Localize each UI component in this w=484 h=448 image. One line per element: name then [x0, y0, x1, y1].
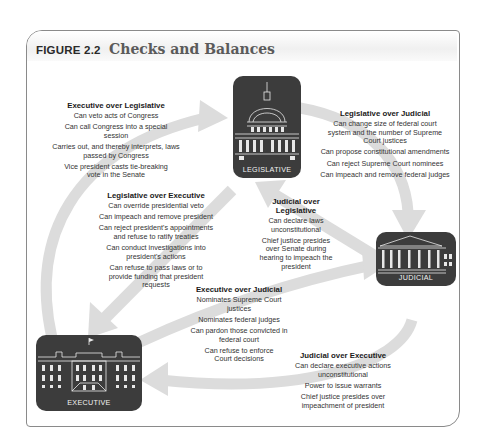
check-heading: Legislative over Judicial [318, 109, 452, 118]
check-item: Can reject Supreme Court nominees [318, 160, 452, 169]
judicial-label: JUDICIAL [376, 273, 456, 282]
check-item: Can pardon those convicted in federal co… [186, 327, 292, 344]
check-item: Can refuse to enforce Court decisions [186, 347, 292, 364]
check-item: Can veto acts of Congress [42, 112, 190, 121]
check-item: Can override presidential veto [90, 202, 222, 211]
check-item: Can propose constitutional amendments [318, 148, 452, 157]
check-item: Nominates federal judges [186, 316, 292, 325]
check-item: Can call Congress into a special session [42, 123, 190, 140]
check-legislative-over-executive: Legislative over Executive Can override … [90, 191, 222, 292]
check-item: Nominates Supreme Court justices [186, 296, 292, 313]
check-executive-over-legislative: Executive over Legislative Can veto acts… [42, 101, 190, 183]
check-heading: Executive over Legislative [42, 101, 190, 110]
legislative-label: LEGISLATIVE [233, 165, 301, 174]
judicial-branch: JUDICIAL [376, 232, 456, 286]
check-judicial-over-legislative: Judicial over Legislative Can declare la… [256, 197, 336, 274]
check-item: Can reject president's appointments and … [90, 224, 222, 241]
check-item: Can conduct investigations into presiden… [90, 244, 222, 261]
check-heading: Legislative over Executive [90, 191, 222, 200]
check-item: Carries out, and thereby interprets, law… [42, 143, 190, 160]
check-heading: Judicial over Legislative [256, 197, 336, 215]
check-item: Chief justice presides over impeachment … [280, 393, 406, 410]
check-item: Chief justice presides over Senate durin… [256, 237, 336, 271]
check-judicial-over-executive: Judicial over Executive Can declare exec… [280, 351, 406, 413]
executive-label: EXECUTIVE [36, 398, 142, 407]
executive-branch: EXECUTIVE [36, 335, 142, 411]
check-heading: Judicial over Executive [280, 351, 406, 360]
check-executive-over-judicial: Executive over Judicial Nominates Suprem… [186, 285, 292, 367]
check-item: Vice president casts tie-breaking vote i… [42, 163, 190, 180]
check-item: Can declare executive actions unconstitu… [280, 362, 406, 379]
check-item: Can impeach and remove president [90, 213, 222, 222]
check-item: Power to issue warrants [280, 382, 406, 391]
capitol-building-icon [233, 78, 301, 166]
check-item: Can declare laws unconstitutional [256, 217, 336, 234]
supreme-court-building-icon [376, 234, 456, 276]
check-legislative-over-judicial: Legislative over Judicial Can change siz… [318, 109, 452, 182]
check-item: Can impeach and remove federal judges [318, 171, 452, 180]
check-item: Can change size of federal court system … [318, 120, 452, 146]
white-house-icon [36, 335, 142, 397]
legislative-branch: LEGISLATIVE [233, 76, 301, 178]
check-heading: Executive over Judicial [186, 285, 292, 294]
